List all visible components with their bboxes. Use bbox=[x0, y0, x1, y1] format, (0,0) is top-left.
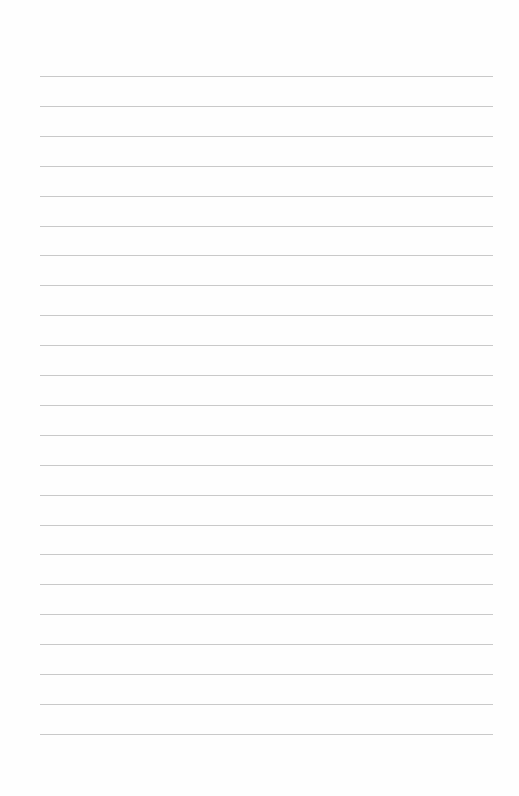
ruled-line bbox=[40, 435, 493, 436]
ruled-line bbox=[40, 704, 493, 705]
ruled-line bbox=[40, 674, 493, 675]
ruled-line bbox=[40, 495, 493, 496]
ruled-line bbox=[40, 554, 493, 555]
ruled-line bbox=[40, 405, 493, 406]
ruled-line bbox=[40, 315, 493, 316]
ruled-line bbox=[40, 226, 493, 227]
ruled-line bbox=[40, 734, 493, 735]
ruled-line bbox=[40, 525, 493, 526]
ruled-line bbox=[40, 375, 493, 376]
ruled-line bbox=[40, 76, 493, 77]
ruled-line bbox=[40, 644, 493, 645]
ruled-line bbox=[40, 614, 493, 615]
ruled-line bbox=[40, 255, 493, 256]
ruled-line bbox=[40, 584, 493, 585]
ruled-line bbox=[40, 285, 493, 286]
ruled-line bbox=[40, 136, 493, 137]
ruled-line bbox=[40, 106, 493, 107]
lined-paper-page bbox=[0, 0, 519, 796]
ruled-line bbox=[40, 345, 493, 346]
ruled-line bbox=[40, 465, 493, 466]
ruled-line bbox=[40, 166, 493, 167]
ruled-line bbox=[40, 196, 493, 197]
